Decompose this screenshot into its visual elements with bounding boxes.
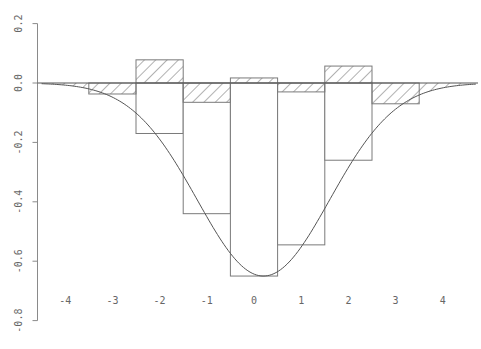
y-tick-label: -0.8: [13, 309, 24, 333]
y-tick-label: 0.0: [13, 74, 24, 92]
x-tick-label: 0: [251, 295, 257, 306]
residual-bar: [372, 83, 419, 104]
residual-bar: [183, 83, 230, 102]
residual-bar: [136, 60, 183, 83]
chart: 0.20.0-0.2-0.4-0.6-0.8 -4-3-2-101234: [0, 0, 481, 349]
histogram-bars: [136, 83, 372, 276]
x-tick-label: 3: [393, 295, 399, 306]
x-axis-labels: -4-3-2-101234: [59, 295, 446, 306]
y-tick-label: 0.2: [13, 15, 24, 33]
x-tick-label: 2: [345, 295, 351, 306]
y-tick-label: -0.4: [13, 190, 24, 214]
histogram-bar: [136, 83, 183, 133]
residual-bar: [325, 66, 372, 83]
residual-bar: [230, 78, 277, 83]
x-tick-label: -3: [106, 295, 118, 306]
x-tick-label: 1: [298, 295, 304, 306]
y-tick-label: -0.2: [13, 130, 24, 154]
x-tick-label: 4: [440, 295, 446, 306]
y-tick-label: -0.6: [13, 249, 24, 273]
x-tick-label: -4: [59, 295, 71, 306]
y-axis: 0.20.0-0.2-0.4-0.6-0.8: [13, 15, 38, 333]
histogram-bar: [230, 83, 277, 276]
x-tick-label: -2: [154, 295, 166, 306]
x-tick-label: -1: [201, 295, 213, 306]
residual-bar: [89, 83, 136, 94]
residual-bar: [278, 83, 325, 92]
histogram-bar: [325, 83, 372, 160]
